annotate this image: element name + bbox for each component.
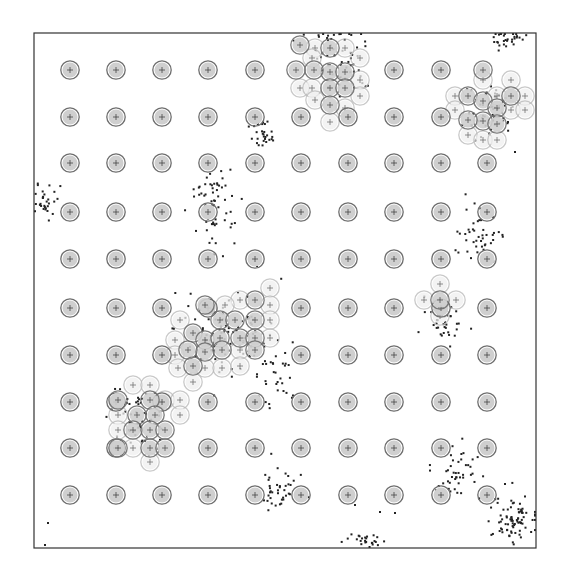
data-point [475, 246, 477, 248]
grid-node-icon [385, 346, 403, 364]
data-point [470, 328, 472, 330]
data-point [198, 194, 200, 196]
data-point [288, 364, 290, 366]
data-point [451, 476, 453, 478]
data-point [56, 198, 58, 200]
data-point [114, 388, 116, 390]
data-point [377, 544, 379, 546]
data-point [512, 502, 514, 504]
data-point [475, 240, 477, 242]
data-point [271, 138, 273, 140]
data-point [507, 508, 509, 510]
grid-node-icon [292, 393, 310, 411]
data-point [275, 372, 277, 374]
data-point [275, 383, 277, 385]
data-point [280, 278, 282, 280]
data-point [333, 34, 335, 36]
grid-node-icon [339, 393, 357, 411]
data-point [262, 363, 264, 365]
som-scatter-plot [0, 0, 567, 577]
data-point [456, 328, 458, 330]
data-point [466, 209, 468, 211]
grid-node-icon [478, 299, 496, 317]
data-point [472, 473, 474, 475]
data-point [511, 41, 513, 43]
data-point [264, 138, 266, 140]
grid-node-icon [385, 61, 403, 79]
data-point [503, 40, 505, 42]
grid-node-icon [199, 486, 217, 504]
grid-node-icon [385, 486, 403, 504]
data-point [460, 458, 462, 460]
data-point [285, 363, 287, 365]
data-point [492, 234, 494, 236]
data-point [366, 536, 368, 538]
data-point [284, 365, 286, 367]
data-point [520, 536, 522, 538]
data-point [270, 453, 272, 455]
grid-node-icon [385, 108, 403, 126]
data-point [514, 532, 516, 534]
data-point [285, 485, 287, 487]
data-point [473, 241, 475, 243]
data-point [376, 536, 378, 538]
data-point [472, 458, 474, 460]
grid-node-icon [385, 250, 403, 268]
data-point [356, 538, 358, 540]
data-point [482, 237, 484, 239]
grid-node-icon [246, 154, 264, 172]
displaced-node-icon [124, 421, 142, 439]
data-point [256, 373, 258, 375]
data-point [263, 136, 265, 138]
data-point [35, 203, 37, 205]
grid-node-icon [385, 299, 403, 317]
data-point [271, 502, 273, 504]
data-point [513, 43, 515, 45]
data-point [215, 242, 217, 244]
data-point [379, 511, 381, 513]
data-point [267, 500, 269, 502]
data-point [276, 484, 278, 486]
data-point [482, 475, 484, 477]
displaced-node-icon [156, 421, 174, 439]
grid-node-icon [246, 486, 264, 504]
data-point [285, 495, 287, 497]
data-point [506, 516, 508, 518]
grid-node-icon [478, 250, 496, 268]
data-point [523, 516, 525, 518]
grid-node-icon [385, 393, 403, 411]
grid-node-icon [478, 439, 496, 457]
data-point [137, 403, 139, 405]
data-point [224, 199, 226, 201]
grid-node-icon [246, 393, 264, 411]
grid-node-icon [339, 486, 357, 504]
data-point [46, 201, 48, 203]
data-point [524, 527, 526, 529]
data-point [456, 323, 458, 325]
grid-node-icon [339, 299, 357, 317]
data-point [360, 543, 362, 545]
data-point [318, 36, 320, 38]
data-point [187, 305, 189, 307]
grid-node-icon [153, 250, 171, 268]
data-point [211, 200, 213, 202]
data-point [455, 249, 457, 251]
data-point [488, 520, 490, 522]
data-point [511, 516, 513, 518]
data-point [372, 544, 374, 546]
data-point [358, 535, 360, 537]
grid-node-icon [339, 203, 357, 221]
data-point [231, 223, 233, 225]
data-point [464, 233, 466, 235]
displaced-node-icon [184, 357, 202, 375]
displaced-node-icon [474, 92, 492, 110]
data-point [206, 229, 208, 231]
grid-node-icon [153, 61, 171, 79]
grid-node-icon [432, 346, 450, 364]
data-point [501, 528, 503, 530]
data-point [47, 205, 49, 207]
data-point [498, 231, 500, 233]
grid-node-icon [107, 61, 125, 79]
grid-node-icon [107, 250, 125, 268]
grid-node-icon [246, 203, 264, 221]
